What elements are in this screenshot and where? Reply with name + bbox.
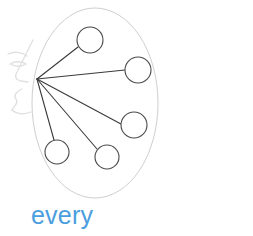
node-1 <box>77 27 103 53</box>
eye-stroke <box>10 62 26 67</box>
node-2 <box>125 57 151 83</box>
line-to-node-3 <box>37 79 121 124</box>
figure-root: every <box>0 0 253 236</box>
gaze-lines-group <box>37 47 125 149</box>
jawline-stroke <box>12 110 31 114</box>
observer-face-profile <box>8 40 33 114</box>
node-5 <box>45 140 69 164</box>
line-to-node-1 <box>37 47 78 79</box>
node-4 <box>95 145 119 169</box>
forehead-nose-stroke <box>16 40 33 82</box>
figure-caption: every <box>31 200 93 230</box>
line-to-node-2 <box>37 70 125 79</box>
eyebrow-stroke <box>8 52 27 56</box>
lips-chin-stroke <box>12 89 22 110</box>
node-3 <box>121 112 147 138</box>
member-nodes-group <box>45 27 151 169</box>
line-to-node-4 <box>37 79 97 149</box>
caption-layer: every <box>0 196 253 236</box>
